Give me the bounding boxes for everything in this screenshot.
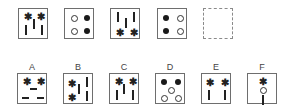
star-icon: ✱	[37, 13, 45, 21]
option-b[interactable]: ✱✱	[63, 73, 93, 104]
sequence-box-4	[157, 8, 187, 39]
hollow-circle-icon	[177, 15, 184, 22]
filled-circle-icon	[84, 28, 90, 34]
filled-circle-icon	[175, 79, 181, 85]
vertical-bar-icon	[125, 18, 127, 28]
vertical-bar-icon	[41, 25, 43, 35]
sequence-box-2	[64, 8, 94, 39]
hollow-circle-icon	[71, 15, 78, 22]
star-icon: ✱	[130, 29, 138, 37]
star-icon: ✱	[221, 79, 229, 87]
hollow-circle-icon	[161, 95, 168, 102]
star-icon: ✱	[259, 78, 267, 86]
option-label-f: F	[247, 62, 277, 72]
hollow-circle-icon	[168, 87, 175, 94]
filled-circle-icon	[161, 79, 167, 85]
star-icon: ✱	[206, 79, 214, 87]
hollow-circle-icon	[71, 28, 78, 35]
vertical-bar-icon	[78, 84, 80, 94]
star-icon: ✱	[37, 78, 45, 86]
option-label-d: D	[155, 62, 185, 72]
star-icon: ✱	[23, 78, 31, 86]
option-d[interactable]	[155, 73, 185, 104]
horizontal-bar-icon	[30, 88, 37, 90]
option-label-e: E	[201, 62, 231, 72]
star-icon: ✱	[24, 13, 32, 21]
vertical-bar-icon	[224, 90, 226, 100]
filled-circle-icon	[163, 28, 169, 34]
vertical-bar-icon	[133, 12, 135, 22]
hollow-circle-icon	[177, 28, 184, 35]
vertical-bar-icon	[262, 95, 264, 105]
star-icon: ✱	[68, 80, 76, 88]
star-icon: ✱	[68, 94, 76, 102]
star-icon: ✱	[115, 78, 123, 86]
horizontal-bar-icon	[37, 97, 44, 99]
sequence-box-1: ✱✱	[18, 8, 48, 39]
star-icon: ✱	[116, 29, 124, 37]
vertical-bar-icon	[208, 90, 210, 100]
option-a[interactable]: ✱✱	[17, 73, 47, 104]
horizontal-bar-icon	[22, 97, 29, 99]
option-c[interactable]: ✱✱	[109, 73, 139, 104]
option-e[interactable]: ✱✱	[201, 73, 231, 104]
star-icon: ✱	[129, 78, 137, 86]
filled-circle-icon	[163, 15, 169, 21]
vertical-bar-icon	[123, 84, 125, 94]
option-label-c: C	[109, 62, 139, 72]
hollow-circle-icon	[260, 87, 267, 94]
vertical-bar-icon	[86, 77, 88, 87]
option-label-b: B	[63, 62, 93, 72]
vertical-bar-icon	[86, 91, 88, 101]
vertical-bar-icon	[116, 90, 118, 100]
filled-circle-icon	[84, 15, 90, 21]
vertical-bar-icon	[33, 19, 35, 29]
option-label-a: A	[17, 62, 47, 72]
vertical-bar-icon	[117, 12, 119, 22]
missing-answer-box	[203, 8, 233, 39]
option-f[interactable]: ✱	[247, 73, 277, 104]
vertical-bar-icon	[132, 90, 134, 100]
vertical-bar-icon	[25, 25, 27, 35]
sequence-box-3: ✱✱	[110, 8, 140, 39]
hollow-circle-icon	[175, 95, 182, 102]
